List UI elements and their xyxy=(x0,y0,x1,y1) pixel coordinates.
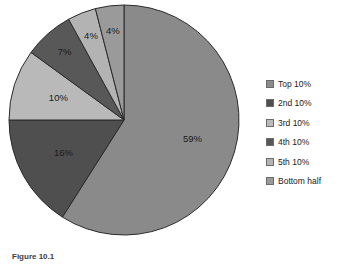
legend-item-label: 3rd 10% xyxy=(278,119,310,128)
legend-item[interactable]: 3rd 10% xyxy=(266,113,341,133)
pie-slice-label: 59% xyxy=(183,133,203,144)
figure-container: 59%16%10%7%4%4% Top 10%2nd 10%3rd 10%4th… xyxy=(0,0,341,265)
legend-item[interactable]: 2nd 10% xyxy=(266,94,341,114)
pie-slice-group xyxy=(9,5,239,235)
pie-slice-label: 7% xyxy=(58,46,72,57)
chart-legend: Top 10%2nd 10%3rd 10%4th 10%5th 10%Botto… xyxy=(266,74,341,191)
legend-swatch-icon xyxy=(266,158,274,166)
pie-slice-label: 4% xyxy=(84,30,98,41)
legend-item-label: Top 10% xyxy=(278,80,311,89)
pie-chart: 59%16%10%7%4%4% xyxy=(8,4,240,236)
legend-item[interactable]: 5th 10% xyxy=(266,152,341,172)
legend-item[interactable]: Bottom half xyxy=(266,172,341,192)
legend-item[interactable]: Top 10% xyxy=(266,74,341,94)
legend-swatch-icon xyxy=(266,138,274,146)
legend-item-label: 2nd 10% xyxy=(278,99,312,108)
legend-swatch-icon xyxy=(266,80,274,88)
pie-slice-label: 4% xyxy=(106,25,120,36)
pie-slice-label: 10% xyxy=(49,92,69,103)
legend-swatch-icon xyxy=(266,99,274,107)
legend-item-label: 5th 10% xyxy=(278,158,309,167)
figure-caption: Figure 10.1 xyxy=(12,252,54,261)
pie-chart-svg: 59%16%10%7%4%4% xyxy=(8,4,240,236)
legend-swatch-icon xyxy=(266,177,274,185)
legend-item[interactable]: 4th 10% xyxy=(266,133,341,153)
legend-item-label: 4th 10% xyxy=(278,138,309,147)
pie-slice-label: 16% xyxy=(54,147,74,158)
legend-item-label: Bottom half xyxy=(278,177,321,186)
legend-swatch-icon xyxy=(266,119,274,127)
